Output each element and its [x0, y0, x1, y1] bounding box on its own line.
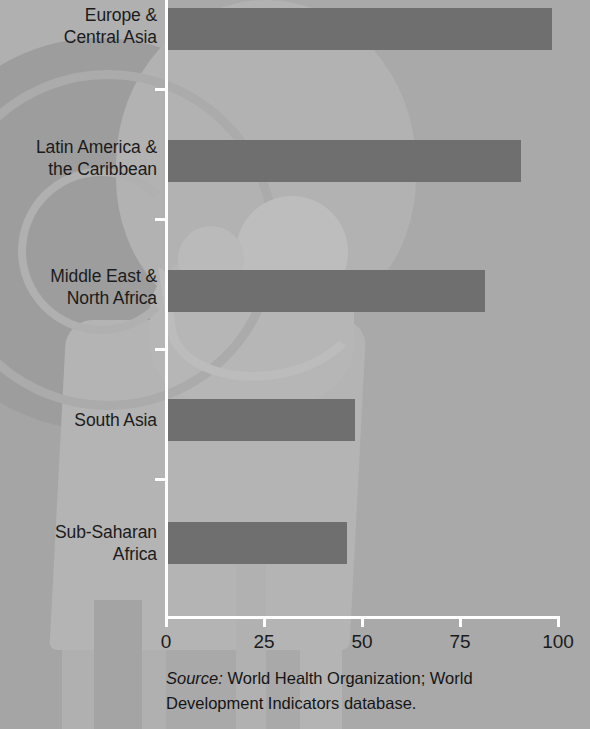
category-label-line1: Sub-Saharan — [0, 521, 157, 543]
source-prefix: Source: — [166, 669, 223, 687]
bar-south-asia[interactable] — [166, 399, 355, 441]
category-label-line1: South Asia — [0, 409, 157, 431]
category-label-line1: Europe & — [0, 4, 157, 26]
source-line1-rest: World Health Organization; World — [223, 669, 473, 687]
y-axis-tick — [155, 478, 166, 481]
x-axis-tick-label-0: 0 — [136, 631, 196, 653]
source-note: Source: World Health Organization; World… — [166, 666, 566, 716]
category-label-sub-saharan-africa: Sub-Saharan Africa — [0, 521, 157, 565]
source-line2: Development Indicators database. — [166, 694, 416, 712]
x-axis-tick-label-50: 50 — [332, 631, 392, 653]
x-axis-tick — [459, 616, 462, 627]
category-label-middle-east-north-africa: Middle East & North Africa — [0, 265, 157, 309]
category-label-europe-central-asia: Europe & Central Asia — [0, 4, 157, 48]
category-label-south-asia: South Asia — [0, 409, 157, 431]
category-label-line2: Africa — [0, 543, 157, 565]
bar-europe-central-asia[interactable] — [166, 8, 552, 50]
y-axis-tick — [155, 88, 166, 91]
category-label-line1: Middle East & — [0, 265, 157, 287]
chart-page: Europe & Central Asia Latin America & th… — [0, 0, 590, 729]
category-label-line2: the Caribbean — [0, 158, 157, 180]
bar-sub-saharan-africa[interactable] — [166, 522, 347, 564]
x-axis-tick-label-75: 75 — [430, 631, 490, 653]
y-axis-line — [165, 0, 168, 618]
category-label-latin-america-caribbean: Latin America & the Caribbean — [0, 136, 157, 180]
x-axis-tick — [361, 616, 364, 627]
category-label-line2: North Africa — [0, 287, 157, 309]
bar-latin-america-caribbean[interactable] — [166, 140, 521, 182]
category-label-line1: Latin America & — [0, 136, 157, 158]
x-axis-tick-label-25: 25 — [234, 631, 294, 653]
y-axis-tick — [155, 218, 166, 221]
x-axis-tick-label-100: 100 — [528, 631, 588, 653]
bar-chart: Europe & Central Asia Latin America & th… — [0, 0, 590, 729]
y-axis-tick — [155, 348, 166, 351]
category-label-line2: Central Asia — [0, 26, 157, 48]
bar-middle-east-north-africa[interactable] — [166, 270, 485, 312]
x-axis-tick — [557, 616, 560, 627]
x-axis-tick — [263, 616, 266, 627]
x-axis-tick — [165, 616, 168, 627]
